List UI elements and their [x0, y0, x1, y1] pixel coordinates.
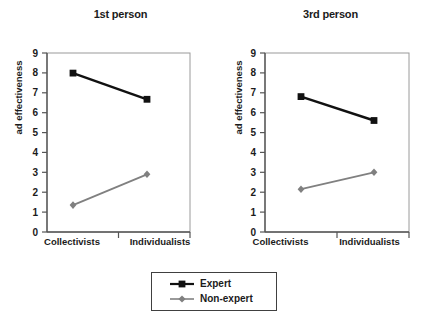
line-chart-svg: 9 8 7 6 5 4 3 2 1 0	[0, 0, 213, 258]
svg-text:5: 5	[250, 127, 256, 138]
axes	[265, 53, 409, 232]
svg-text:4: 4	[250, 147, 256, 158]
svg-text:3: 3	[32, 167, 38, 178]
legend-label-non-expert: Non-expert	[200, 294, 253, 304]
plot-area: 9 8 7 6 5 4 3 2 1 0	[0, 0, 213, 258]
svg-text:8: 8	[250, 67, 256, 78]
legend-marker-diamond-icon	[169, 290, 195, 308]
svg-text:3: 3	[250, 167, 256, 178]
svg-text:5: 5	[32, 127, 38, 138]
legend-item-non-expert: Non-expert	[152, 291, 276, 306]
svg-text:6: 6	[32, 107, 38, 118]
x-tick-label-collectivists: Collectivists	[28, 236, 116, 247]
y-axis-tick-labels: 9 8 7 6 5 4 3 2 1 0	[32, 48, 38, 238]
svg-text:9: 9	[250, 48, 256, 59]
svg-text:1: 1	[250, 207, 256, 218]
svg-text:7: 7	[32, 87, 38, 98]
svg-text:1: 1	[32, 207, 38, 218]
svg-text:2: 2	[32, 187, 38, 198]
x-axis-tick-labels: CollectivistsIndividualists	[28, 236, 204, 247]
x-axis-tick-labels: CollectivistsIndividualists	[236, 236, 414, 247]
plot-area: 9 8 7 6 5 4 3 2 1 0	[214, 0, 427, 258]
x-tick-label-individualists: Individualists	[325, 236, 414, 247]
chart-panel-1st-person: 1st person ad effectiveness	[0, 0, 213, 258]
svg-text:8: 8	[32, 67, 38, 78]
svg-text:6: 6	[250, 107, 256, 118]
svg-text:7: 7	[250, 87, 256, 98]
figure: 1st person ad effectiveness	[0, 0, 427, 317]
svg-text:2: 2	[250, 187, 256, 198]
x-tick-label-individualists: Individualists	[116, 236, 204, 247]
svg-text:9: 9	[32, 48, 38, 59]
y-axis-tick-labels: 9 8 7 6 5 4 3 2 1 0	[250, 48, 256, 238]
axes	[47, 53, 190, 232]
chart-legend: Expert Non-expert	[151, 272, 277, 311]
line-chart-svg: 9 8 7 6 5 4 3 2 1 0	[214, 0, 427, 258]
svg-text:4: 4	[32, 147, 38, 158]
y-axis-ticks	[260, 53, 265, 232]
legend-label-expert: Expert	[200, 279, 231, 289]
chart-panel-3rd-person: 3rd person ad effectiveness	[214, 0, 427, 258]
x-tick-label-collectivists: Collectivists	[236, 236, 325, 247]
y-axis-ticks	[42, 53, 47, 232]
